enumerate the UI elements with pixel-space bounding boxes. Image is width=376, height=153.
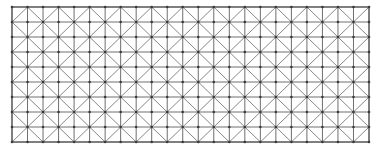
grid-node <box>166 66 169 69</box>
grid-node <box>150 36 153 39</box>
grid-node <box>197 126 200 129</box>
grid-node <box>197 66 200 69</box>
grid-node <box>11 66 14 69</box>
grid-node <box>212 126 215 129</box>
grid-node <box>135 111 138 114</box>
grid-node <box>42 21 45 24</box>
grid-node <box>57 126 60 129</box>
grid-node <box>88 141 91 144</box>
grid-node <box>119 21 122 24</box>
grid-node <box>290 6 293 9</box>
grid-node <box>197 51 200 54</box>
grid-node <box>11 141 14 144</box>
grid-node <box>244 81 247 84</box>
grid-node <box>368 66 371 69</box>
grid-node <box>337 141 340 144</box>
grid-node <box>259 66 262 69</box>
grid-node <box>259 21 262 24</box>
grid-node <box>275 66 278 69</box>
grid-node <box>337 36 340 39</box>
grid-node <box>88 21 91 24</box>
grid-node <box>212 141 215 144</box>
lattice-svg <box>0 0 376 153</box>
grid-node <box>150 81 153 84</box>
grid-node <box>352 51 355 54</box>
background <box>0 0 376 153</box>
grid-node <box>119 111 122 114</box>
grid-node <box>11 36 14 39</box>
grid-node <box>73 96 76 99</box>
grid-node <box>290 21 293 24</box>
grid-node <box>306 36 309 39</box>
grid-node <box>259 6 262 9</box>
grid-node <box>290 96 293 99</box>
grid-node <box>290 81 293 84</box>
grid-node <box>166 141 169 144</box>
grid-node <box>104 66 107 69</box>
grid-node <box>181 66 184 69</box>
grid-node <box>197 96 200 99</box>
grid-node <box>290 51 293 54</box>
grid-node <box>212 66 215 69</box>
grid-node <box>352 81 355 84</box>
grid-node <box>88 111 91 114</box>
grid-node <box>228 36 231 39</box>
grid-node <box>306 66 309 69</box>
grid-node <box>259 36 262 39</box>
grid-node <box>119 141 122 144</box>
grid-node <box>368 81 371 84</box>
grid-node <box>228 111 231 114</box>
grid-node <box>73 81 76 84</box>
grid-node <box>212 111 215 114</box>
grid-node <box>337 126 340 129</box>
grid-node <box>135 66 138 69</box>
grid-node <box>119 126 122 129</box>
grid-node <box>73 141 76 144</box>
grid-node <box>57 51 60 54</box>
grid-node <box>352 141 355 144</box>
grid-node <box>181 111 184 114</box>
grid-node <box>150 51 153 54</box>
grid-node <box>150 141 153 144</box>
grid-node <box>306 111 309 114</box>
grid-node <box>321 6 324 9</box>
grid-node <box>57 66 60 69</box>
grid-node <box>306 126 309 129</box>
grid-node <box>306 81 309 84</box>
grid-node <box>352 111 355 114</box>
grid-node <box>42 81 45 84</box>
grid-node <box>104 21 107 24</box>
grid-node <box>275 81 278 84</box>
grid-node <box>88 81 91 84</box>
grid-node <box>73 51 76 54</box>
grid-node <box>73 66 76 69</box>
grid-node <box>352 96 355 99</box>
grid-node <box>337 6 340 9</box>
grid-node <box>150 96 153 99</box>
grid-node <box>104 111 107 114</box>
grid-node <box>26 126 29 129</box>
grid-node <box>42 6 45 9</box>
grid-node <box>228 126 231 129</box>
grid-node <box>228 96 231 99</box>
grid-node <box>321 21 324 24</box>
grid-node <box>73 126 76 129</box>
grid-node <box>57 111 60 114</box>
grid-node <box>150 21 153 24</box>
grid-node <box>88 96 91 99</box>
grid-node <box>166 21 169 24</box>
grid-node <box>150 66 153 69</box>
grid-node <box>135 36 138 39</box>
grid-node <box>42 126 45 129</box>
grid-node <box>57 96 60 99</box>
grid-node <box>197 6 200 9</box>
grid-node <box>306 96 309 99</box>
grid-node <box>337 66 340 69</box>
grid-node <box>104 126 107 129</box>
grid-node <box>368 111 371 114</box>
grid-node <box>212 21 215 24</box>
grid-node <box>337 96 340 99</box>
grid-node <box>26 36 29 39</box>
grid-node <box>337 51 340 54</box>
grid-node <box>275 21 278 24</box>
